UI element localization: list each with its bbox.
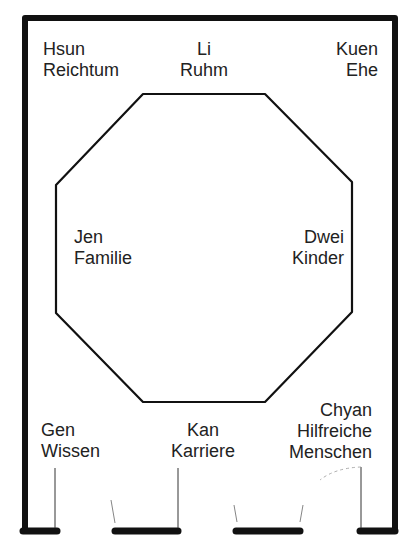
zone-kuen: Kuen Ehe (336, 39, 378, 81)
zone-chyan-meaning-line2: Menschen (289, 442, 372, 463)
zone-gen-name: Gen (41, 420, 100, 441)
door-arc-right (320, 467, 361, 480)
zone-hsun: Hsun Reichtum (43, 39, 119, 81)
zone-hsun-meaning: Reichtum (43, 60, 119, 81)
door-swing-center-left (234, 505, 237, 522)
door-swing-left (111, 500, 115, 523)
zone-kan-meaning: Karriere (158, 441, 248, 462)
zone-chyan-name: Chyan (289, 400, 372, 421)
zone-dwei-name: Dwei (292, 227, 344, 248)
zone-kuen-meaning: Ehe (336, 60, 378, 81)
zone-li: Li Ruhm (164, 39, 244, 81)
zone-gen: Gen Wissen (41, 420, 100, 462)
zone-jen-name: Jen (74, 227, 132, 248)
zone-chyan: Chyan Hilfreiche Menschen (289, 400, 372, 463)
zone-li-name: Li (164, 39, 244, 60)
zone-dwei-meaning: Kinder (292, 248, 344, 269)
bagua-diagram (0, 0, 406, 547)
zone-li-meaning: Ruhm (164, 60, 244, 81)
door-swing-center-right (300, 505, 303, 522)
zone-kan-name: Kan (158, 420, 248, 441)
zone-chyan-meaning-line1: Hilfreiche (289, 421, 372, 442)
zone-hsun-name: Hsun (43, 39, 119, 60)
zone-jen: Jen Familie (74, 227, 132, 269)
zone-jen-meaning: Familie (74, 248, 132, 269)
zone-kan: Kan Karriere (158, 420, 248, 462)
zone-kuen-name: Kuen (336, 39, 378, 60)
zone-dwei: Dwei Kinder (292, 227, 344, 269)
zone-gen-meaning: Wissen (41, 441, 100, 462)
